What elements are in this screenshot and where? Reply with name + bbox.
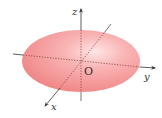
y-axis-right: [140, 67, 155, 68]
x-axis-upper: [104, 24, 111, 33]
origin-label: O: [84, 65, 93, 78]
z-axis-label: z: [71, 6, 78, 17]
diagram-canvas: z y x O: [0, 0, 162, 118]
y-axis-label: y: [143, 71, 150, 82]
x-axis-label: x: [51, 101, 57, 112]
ellipsoid-diagram: z y x O: [0, 0, 162, 118]
y-axis-left: [13, 54, 23, 55]
